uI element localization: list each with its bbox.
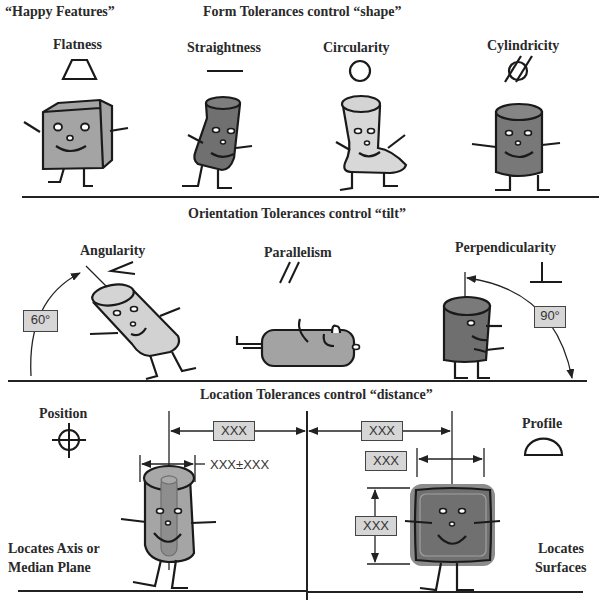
circularity-symbol-icon — [350, 61, 370, 81]
position-caption-line2: Median Plane — [8, 560, 91, 576]
angle-90-box: 90° — [534, 306, 566, 328]
orientation-section-title: Orientation Tolerances control “tilt” — [188, 206, 406, 222]
angularity-symbol-icon — [111, 262, 135, 274]
flatness-character — [24, 100, 128, 186]
angularity-label: Angularity — [80, 243, 145, 259]
flatness-label: Flatness — [53, 37, 102, 53]
position-size-tolerance: XXX±XXX — [210, 457, 269, 472]
position-label: Position — [39, 406, 87, 422]
position-basic-dim-box: XXX — [213, 421, 255, 441]
parallelism-character — [237, 319, 360, 366]
straightness-character — [182, 97, 252, 188]
profile-caption-line2: Surfaces — [535, 560, 586, 576]
cylindricity-symbol-icon — [505, 56, 532, 82]
profile-width-dim-box: XXX — [365, 451, 407, 471]
straightness-label: Straightness — [187, 40, 261, 56]
profile-character — [405, 484, 500, 590]
flatness-symbol-icon — [63, 60, 96, 79]
cylindricity-character — [472, 104, 560, 190]
location-section-title: Location Tolerances control “distance” — [200, 387, 433, 403]
position-symbol-icon — [52, 423, 86, 458]
perpendicularity-label: Perpendicularity — [455, 240, 556, 256]
profile-caption-line1: Locates — [538, 541, 584, 557]
profile-top-dim-box: XXX — [361, 421, 403, 441]
parallelism-label: Parallelism — [264, 245, 332, 261]
circularity-character — [336, 96, 406, 190]
profile-height-dim-box: XXX — [355, 516, 397, 536]
perpendicularity-symbol-icon — [530, 262, 562, 282]
happy-features-label: “Happy Features” — [5, 4, 115, 20]
profile-symbol-icon — [525, 439, 562, 455]
position-caption-line1: Locates Axis or — [8, 541, 100, 557]
profile-label: Profile — [522, 416, 562, 432]
parallelism-symbol-icon — [280, 262, 299, 283]
perpendicularity-character — [444, 297, 504, 378]
angle-60-box: 60° — [23, 310, 58, 332]
diagram-canvas — [0, 0, 601, 611]
form-section-title: Form Tolerances control “shape” — [203, 4, 401, 20]
angularity-character — [90, 282, 196, 379]
circularity-label: Circularity — [323, 40, 390, 56]
cylindricity-label: Cylindricity — [487, 38, 559, 54]
